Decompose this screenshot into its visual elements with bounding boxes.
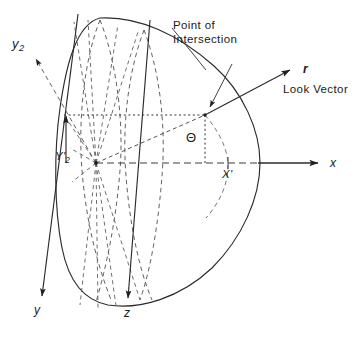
intersection-point-marker [203, 113, 206, 116]
terminator-arc [205, 115, 228, 218]
y2-prime-label: Y'2 [55, 150, 70, 165]
diagram-canvas [0, 0, 358, 342]
point-of-intersection-line-2: Intersection [173, 33, 237, 47]
axis-label-y: y [34, 303, 40, 317]
x-prime-label: X' [222, 168, 233, 182]
projection-construction [64, 115, 205, 163]
point-of-intersection-label: Point of Intersection [173, 19, 237, 46]
z-axis [128, 20, 150, 298]
look-vector-label: Look Vector [283, 83, 348, 97]
body-outline [56, 18, 260, 306]
origin-point-marker [94, 161, 98, 165]
theta-label: Θ [186, 130, 197, 145]
point-of-intersection-line-1: Point of [173, 19, 237, 33]
meridian-lines [66, 20, 140, 308]
technical-diagram: y2 y z x r Look Vector Point of Intersec… [0, 0, 358, 342]
look-vector-symbol: r [303, 62, 308, 76]
axis-label-y2: y2 [12, 36, 24, 54]
axis-label-x: x [330, 156, 336, 170]
axis-label-z: z [124, 306, 130, 320]
